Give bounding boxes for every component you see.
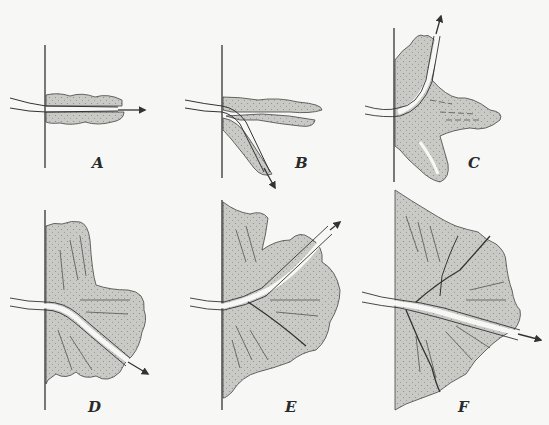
flow-arrow [330,222,340,230]
channel-bank-lower [10,108,118,112]
deposit-fan [395,35,501,182]
panel-label-b: B [295,154,308,172]
diagram-canvas [0,0,549,425]
panel-label-f: F [458,398,469,416]
panel-e [190,200,340,410]
panel-label-e: E [285,398,296,416]
panel-d [10,210,148,410]
panel-c [365,16,501,182]
deposit-lobe-old-lower [226,114,315,126]
deposit-lobe-new [223,118,272,175]
panel-a [10,45,145,168]
flow-arrow [518,334,541,340]
panel-label-d: D [88,398,101,416]
panel-f [362,190,541,410]
deposit-lobe-lower [46,112,124,124]
figure: A B C D E F [0,0,549,425]
deposit-lobe-upper [46,94,122,106]
panel-label-a: A [92,154,104,172]
deposit-lobe-old [223,97,322,113]
flow-arrow [128,362,148,374]
flow-arrow [436,16,441,34]
panel-label-c: C [468,154,480,172]
